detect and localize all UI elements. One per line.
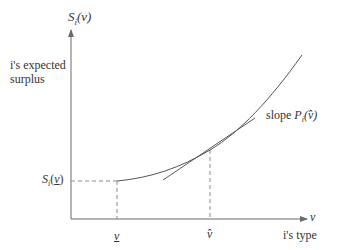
slope-arg: (v̂) — [304, 108, 317, 122]
x-axis-label: v — [310, 210, 315, 225]
y-axis-label-arg: (v) — [77, 9, 91, 24]
tick-v-hat: v̂ — [207, 227, 212, 242]
tick-v-lower: v — [114, 229, 119, 244]
tangent-line — [163, 118, 255, 180]
y-axis-description-line1: i's expected — [10, 58, 66, 72]
slope-prefix: slope — [266, 108, 294, 122]
y-tick-close: ) — [60, 172, 64, 186]
slope-main: P — [294, 108, 301, 122]
x-axis-description: i's type — [283, 228, 317, 243]
y-axis-description: i's expected surplus — [10, 58, 66, 86]
y-axis-description-line2: surplus — [10, 72, 66, 86]
diagram-canvas — [0, 0, 339, 250]
y-axis-label: Si(v) — [68, 9, 91, 27]
slope-label: slope Pi(v̂) — [266, 108, 317, 124]
y-tick-label: Si(v) — [42, 172, 64, 188]
